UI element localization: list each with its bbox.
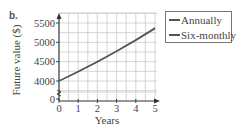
svg-text:5000: 5000 (34, 37, 55, 48)
legend-swatch (169, 34, 180, 36)
svg-text:4000: 4000 (34, 76, 55, 87)
svg-text:0: 0 (50, 94, 55, 105)
svg-text:4: 4 (133, 103, 139, 114)
x-axis-label: Years (95, 114, 120, 126)
legend-label: Annually (181, 14, 222, 26)
legend-swatch (169, 19, 180, 21)
svg-text:3: 3 (114, 103, 119, 114)
svg-text:5500: 5500 (34, 18, 55, 29)
svg-text:4500: 4500 (34, 56, 55, 67)
svg-text:5: 5 (152, 103, 157, 114)
svg-text:1: 1 (76, 103, 81, 114)
svg-text:2: 2 (95, 103, 100, 114)
svg-text:0: 0 (56, 103, 61, 114)
chart-grid (59, 13, 157, 101)
legend-item-annually: Annually (169, 13, 222, 27)
tick-labels: 01234504000450050005500 (34, 18, 158, 115)
legend-item-six-monthly: Six-monthly (169, 28, 236, 42)
chart-axes (56, 13, 160, 104)
chart-legend: Annually Six-monthly (165, 11, 232, 43)
legend-label: Six-monthly (181, 29, 236, 41)
y-axis-label: Future value ($) (10, 24, 23, 95)
